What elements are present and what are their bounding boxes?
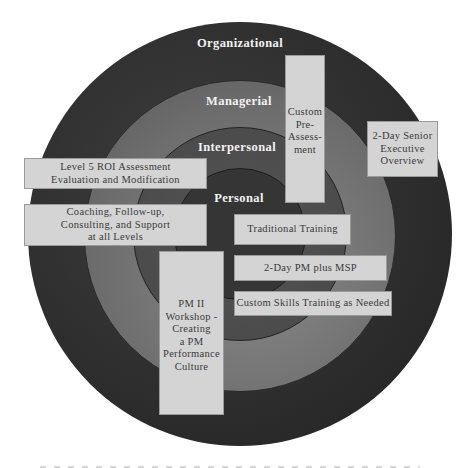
label-organizational: Organizational: [197, 36, 283, 51]
label-personal: Personal: [214, 191, 264, 206]
box-label: Custom Skills Training as Needed: [236, 297, 389, 310]
label-managerial: Managerial: [206, 94, 272, 109]
box-pm-plus-msp: 2-Day PM plus MSP: [234, 255, 387, 281]
box-level5-roi: Level 5 ROI Assessment Evaluation and Mo…: [24, 158, 207, 189]
box-label: PM II Workshop - Creating a PM Performan…: [163, 298, 220, 373]
box-label: 2-Day Senior Executive Overview: [373, 130, 433, 168]
box-coaching: Coaching, Follow-up, Consulting, and Sup…: [24, 204, 207, 246]
box-label: Custom Pre- Assess- ment: [288, 106, 322, 156]
box-custom-skills: Custom Skills Training as Needed: [234, 291, 392, 316]
box-label: Traditional Training: [247, 223, 338, 236]
box-pm-ii-workshop: PM II Workshop - Creating a PM Performan…: [159, 251, 224, 415]
label-interpersonal: Interpersonal: [198, 140, 276, 155]
box-label: Coaching, Follow-up, Consulting, and Sup…: [61, 206, 170, 244]
box-traditional-training: Traditional Training: [234, 214, 351, 245]
box-label: 2-Day PM plus MSP: [264, 262, 357, 275]
cropped-caption: [40, 462, 420, 468]
box-label: Level 5 ROI Assessment Evaluation and Mo…: [51, 161, 180, 186]
box-senior-executive-overview: 2-Day Senior Executive Overview: [367, 121, 438, 177]
box-custom-pre-assessment: Custom Pre- Assess- ment: [285, 55, 325, 203]
